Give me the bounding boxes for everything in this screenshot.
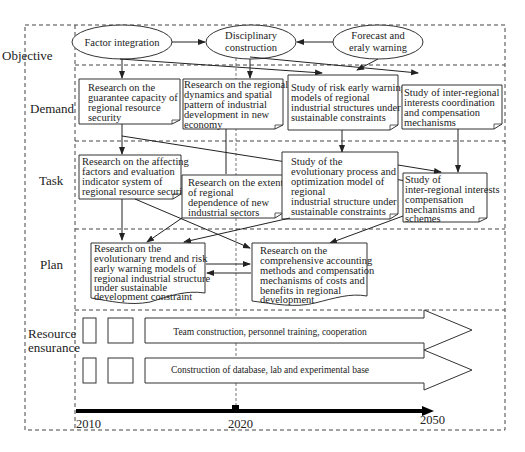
row-label-objective: Objective bbox=[2, 48, 53, 63]
svg-text:eraly warning: eraly warning bbox=[349, 42, 408, 53]
task-box-affecting-factors: Research on the affecting factors and ev… bbox=[79, 155, 191, 199]
svg-text:development: development bbox=[260, 294, 314, 305]
year-2050: 2050 bbox=[420, 413, 445, 427]
row-label-task: Task bbox=[39, 173, 64, 188]
objective-disciplinary-construction: Disciplinary construction bbox=[206, 25, 296, 59]
svg-text:Construction of database, lab: Construction of database, lab and experi… bbox=[171, 365, 369, 375]
research-framework-diagram: Objective Demand Task Plan Resource ensu… bbox=[0, 0, 525, 452]
plan-box-evolutionary-trend: Research on the evolutionary trend and r… bbox=[91, 243, 210, 303]
task-box-evolutionary-process: Study of the evolutionary process and op… bbox=[282, 152, 398, 219]
svg-text:Team construction, personnel t: Team construction, personnel training, c… bbox=[173, 327, 367, 337]
row-label-plan: Plan bbox=[40, 257, 64, 272]
svg-text:security: security bbox=[88, 112, 122, 123]
svg-text:schemes: schemes bbox=[405, 213, 441, 224]
svg-text:development constraint: development constraint bbox=[94, 291, 192, 302]
svg-text:economy: economy bbox=[184, 119, 223, 130]
svg-text:Factor integration: Factor integration bbox=[85, 37, 161, 48]
demand-box-resource-security: Research on the guarantee capacity of re… bbox=[79, 79, 180, 124]
objective-factor-integration: Factor integration bbox=[72, 25, 172, 59]
resource-placeholder-boxes bbox=[83, 318, 133, 383]
arrow-t2-to-p1 bbox=[147, 218, 182, 242]
task-box-compensation-schemes: Study of inter-regional interests compen… bbox=[403, 173, 500, 224]
resource-arrow-team-construction: Team construction, personnel training, c… bbox=[145, 310, 472, 350]
resource-arrow-database-lab: Construction of database, lab and experi… bbox=[145, 350, 472, 390]
row-label-resource-1: Resource bbox=[28, 326, 77, 341]
year-2010: 2010 bbox=[76, 417, 101, 431]
svg-text:mechanisms: mechanisms bbox=[404, 117, 456, 128]
row-label-resource-2: ensurance bbox=[28, 340, 80, 355]
timeline-axis bbox=[76, 405, 434, 416]
demand-box-risk-early-warning: Study of risk early warning models of re… bbox=[288, 75, 407, 130]
year-2020: 2020 bbox=[228, 417, 253, 431]
svg-text:construction: construction bbox=[225, 42, 278, 53]
svg-text:Forecast and: Forecast and bbox=[351, 30, 405, 41]
row-label-demand: Demand bbox=[30, 101, 75, 116]
svg-text:Disciplinary: Disciplinary bbox=[225, 30, 278, 41]
svg-text:industrial sectors: industrial sectors bbox=[188, 207, 259, 218]
demand-box-regional-dynamics: Research on the regional dynamics and sp… bbox=[183, 79, 288, 130]
arrow-t3-to-t4 bbox=[398, 165, 441, 172]
objective-forecast-warning: Forecast and eraly warning bbox=[333, 25, 423, 59]
plan-box-comprehensive-accounting: Research on the comprehensive accounting… bbox=[252, 243, 375, 305]
svg-text:sustainable constraints: sustainable constraints bbox=[291, 112, 386, 123]
demand-box-inter-regional-coordination: Study of inter-regional interests coordi… bbox=[402, 85, 502, 129]
arrow-t3-to-p1 bbox=[184, 218, 290, 242]
task-box-regional-dependence: Research on the extent of regional depen… bbox=[182, 175, 283, 218]
svg-text:regional resource security: regional resource security bbox=[82, 186, 191, 197]
svg-text:sustainable constraints: sustainable constraints bbox=[291, 206, 386, 217]
